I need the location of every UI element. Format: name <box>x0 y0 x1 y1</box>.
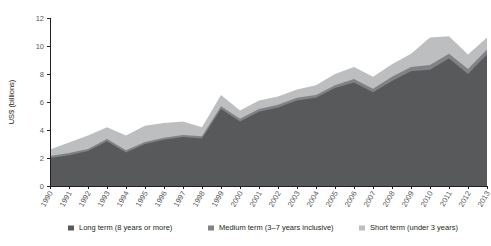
x-tick-label: 1994 <box>115 190 131 209</box>
chart-canvas: 024681012US$ (billions)19901991199219931… <box>0 0 491 246</box>
y-tick-label: 0 <box>40 182 44 191</box>
x-tick-label: 2001 <box>248 190 264 209</box>
x-tick-label: 2006 <box>343 190 359 209</box>
x-tick-label: 2012 <box>457 190 473 209</box>
stacked-area-chart: 024681012US$ (billions)19901991199219931… <box>0 0 491 246</box>
y-tick-label: 12 <box>36 14 44 23</box>
x-tick-label: 1998 <box>191 190 207 209</box>
y-tick-label: 8 <box>40 70 44 79</box>
x-tick-label: 2004 <box>305 190 321 209</box>
x-tick-label: 1996 <box>153 190 169 209</box>
y-tick-label: 2 <box>40 154 44 163</box>
y-tick-label: 6 <box>40 98 44 107</box>
x-tick-label: 1997 <box>172 190 188 209</box>
legend-swatch <box>208 226 214 231</box>
y-tick-label: 4 <box>40 126 44 135</box>
legend-swatch <box>359 226 365 231</box>
x-tick-label: 1990 <box>39 190 55 209</box>
x-tick-label: 1995 <box>134 190 150 209</box>
x-tick-label: 1999 <box>210 190 226 209</box>
x-tick-label: 2009 <box>400 190 416 209</box>
x-tick-label: 2007 <box>362 190 378 209</box>
x-tick-label: 1992 <box>77 190 93 209</box>
x-tick-label: 2000 <box>229 190 245 209</box>
x-tick-label: 2011 <box>438 190 454 208</box>
areas-group <box>50 36 487 186</box>
y-axis-title: US$ (billions) <box>7 79 16 124</box>
x-tick-label: 2010 <box>419 190 435 209</box>
legend: Long term (8 years or more)Medium term (… <box>68 223 458 232</box>
legend-label: Long term (8 years or more) <box>79 223 173 232</box>
y-ticks-group: 024681012 <box>36 14 50 191</box>
legend-swatch <box>68 226 74 231</box>
x-tick-label: 2005 <box>324 190 340 209</box>
x-tick-label: 2003 <box>286 190 302 209</box>
x-tick-label: 1991 <box>58 190 74 209</box>
x-tick-label: 1993 <box>96 190 112 209</box>
x-tick-label: 2008 <box>381 190 397 209</box>
legend-label: Short term (under 3 years) <box>370 223 458 232</box>
area-series-0 <box>50 54 487 186</box>
x-ticks-group: 1990199119921993199419951996199719981999… <box>39 186 491 208</box>
legend-label: Medium term (3–7 years inclusive) <box>219 223 334 232</box>
x-tick-label: 2013 <box>476 190 491 209</box>
y-tick-label: 10 <box>36 42 44 51</box>
x-tick-label: 2002 <box>267 190 283 209</box>
